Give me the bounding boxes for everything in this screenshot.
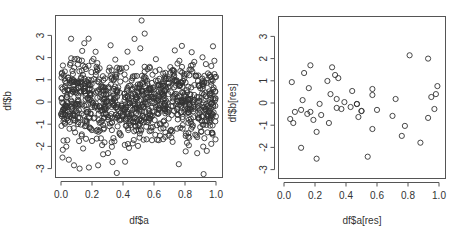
data-point: [393, 96, 398, 101]
data-point: [201, 172, 206, 177]
data-point: [426, 56, 431, 61]
data-point: [210, 44, 215, 49]
data-point: [71, 163, 76, 168]
data-point: [212, 58, 217, 63]
data-point: [172, 48, 177, 53]
data-point: [108, 43, 113, 48]
data-point: [356, 114, 361, 119]
data-point: [317, 101, 322, 106]
data-point: [195, 151, 200, 156]
data-point: [308, 63, 313, 68]
data-point: [399, 133, 404, 138]
x-tick-label: 0.4: [339, 190, 353, 201]
data-point: [122, 142, 127, 147]
x-tick-label: 0.2: [85, 189, 99, 200]
x-axis: 0.00.20.40.60.81.0: [54, 182, 223, 200]
data-point: [202, 136, 207, 141]
data-point: [80, 48, 85, 53]
data-point: [65, 138, 70, 143]
y-tick-label: -2: [35, 142, 46, 151]
data-point: [179, 43, 184, 48]
x-tick-label: 0.6: [370, 190, 384, 201]
data-point: [326, 120, 331, 125]
data-point: [153, 57, 158, 62]
data-point: [365, 154, 370, 159]
data-point: [130, 141, 135, 146]
data-point: [123, 159, 128, 164]
data-point: [209, 63, 214, 68]
data-point: [132, 36, 137, 41]
data-point: [86, 36, 91, 41]
x-tick-label: 0.6: [147, 189, 161, 200]
data-point: [93, 49, 98, 54]
data-point: [175, 126, 180, 131]
data-point: [101, 152, 106, 157]
data-point: [70, 71, 75, 76]
data-point: [122, 72, 127, 77]
data-point: [183, 149, 188, 154]
data-point: [334, 96, 339, 101]
data-point: [125, 49, 130, 54]
data-point: [118, 79, 123, 84]
data-point: [325, 78, 330, 83]
data-point: [348, 104, 353, 109]
x-tick-label: 1.0: [432, 190, 446, 201]
scatter-panel-left: 0.00.20.40.60.81.0 -3-2-10123 df$a df$b: [2, 16, 223, 227]
data-point: [60, 147, 65, 152]
data-point: [201, 144, 206, 149]
data-point: [114, 170, 119, 175]
data-point: [89, 138, 94, 143]
data-point: [60, 155, 65, 160]
data-point: [200, 55, 205, 60]
data-point: [359, 108, 364, 113]
y-tick-label: -3: [258, 165, 269, 174]
data-point: [336, 76, 341, 81]
data-point: [302, 70, 307, 75]
data-point: [354, 102, 359, 107]
data-point: [66, 157, 71, 162]
data-point: [306, 86, 311, 91]
data-point: [113, 57, 118, 62]
data-point: [150, 72, 155, 77]
data-point: [69, 36, 74, 41]
data-point: [77, 139, 82, 144]
data-point: [60, 63, 65, 68]
data-point: [426, 115, 431, 120]
data-point: [123, 77, 128, 82]
y-axis-label: df$b[res]: [227, 83, 238, 122]
data-point: [204, 148, 209, 153]
data-point: [319, 112, 324, 117]
data-point: [291, 120, 296, 125]
x-axis-label: df$a: [129, 215, 149, 226]
data-point: [189, 50, 194, 55]
data-point: [390, 113, 395, 118]
data-point: [213, 137, 218, 142]
data-point: [328, 92, 333, 97]
y-tick-label: 1: [35, 77, 46, 83]
y-axis-label: df$b: [2, 91, 13, 111]
data-point: [429, 94, 434, 99]
data-point: [86, 165, 91, 170]
data-point: [292, 109, 297, 114]
data-point: [209, 141, 214, 146]
data-point: [149, 138, 154, 143]
x-axis-label: df$a[res]: [343, 215, 382, 226]
y-tick-label: 0: [258, 100, 269, 106]
data-point: [432, 106, 437, 111]
data-point: [370, 86, 375, 91]
data-point: [82, 41, 87, 46]
x-tick-label: 0.0: [54, 189, 68, 200]
points-layer: [58, 18, 218, 177]
data-point: [370, 92, 375, 97]
data-point: [374, 107, 379, 112]
data-point: [77, 166, 82, 171]
y-axis: -3-2-10123: [35, 32, 52, 173]
y-tick-label: 2: [35, 54, 46, 60]
figure: 0.00.20.40.60.81.0 -3-2-10123 df$a df$b …: [0, 0, 461, 239]
y-tick-label: -2: [258, 143, 269, 152]
data-point: [109, 128, 114, 133]
data-point: [350, 88, 355, 93]
data-point: [418, 140, 423, 145]
data-point: [129, 60, 134, 65]
y-tick-label: 0: [35, 99, 46, 105]
